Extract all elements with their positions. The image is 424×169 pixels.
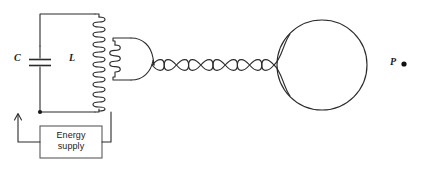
- primary-inductor-coil: [93, 14, 105, 112]
- inductor-label: L: [69, 53, 75, 63]
- sphere-neck-lower: [274, 65, 290, 96]
- junction-node: [38, 110, 42, 114]
- top-wire: [40, 14, 95, 46]
- point-p-dot: [401, 61, 406, 66]
- capacitor-label: C: [14, 53, 21, 63]
- sphere-outline: [277, 20, 367, 110]
- twisted-pair-line: [152, 60, 274, 71]
- sphere-neck-upper: [274, 34, 290, 65]
- point-p-label: P: [390, 57, 396, 67]
- secondary-coil: [110, 38, 154, 80]
- secondary-loop-upper: [131, 38, 154, 65]
- energy-supply-label-line1: Energy: [43, 130, 99, 141]
- diagram-canvas: C L P Energy supply: [0, 0, 424, 169]
- conducting-sphere-assembly: [274, 20, 367, 110]
- energy-supply-label-line2: supply: [43, 141, 99, 152]
- energy-supply-right-lead: [102, 112, 111, 142]
- energy-supply-label: Energy supply: [43, 130, 99, 151]
- secondary-loop-lower: [131, 60, 154, 80]
